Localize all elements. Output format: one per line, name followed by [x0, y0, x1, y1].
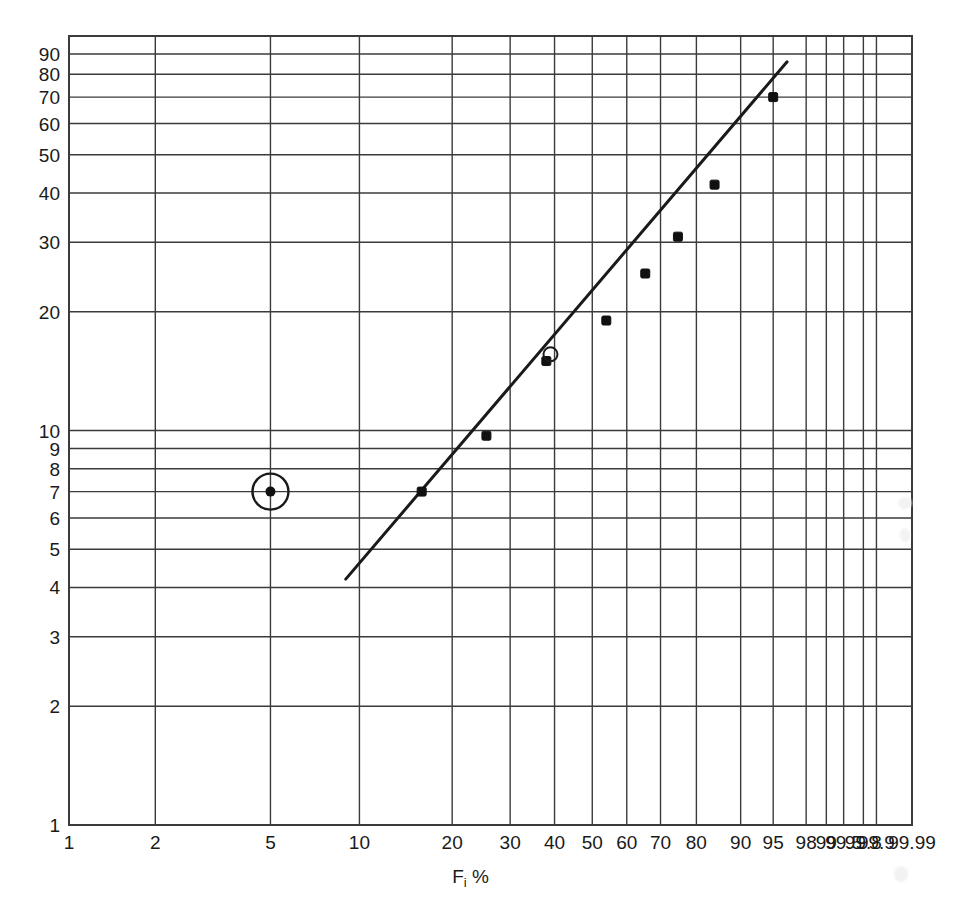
data-point-marker	[673, 232, 682, 241]
data-point-marker	[641, 269, 650, 278]
y-tick-label-5: 5	[14, 540, 60, 559]
y-tick-label-7: 7	[14, 482, 60, 501]
y-tick-label-50: 50	[14, 145, 60, 164]
data-point-marker	[417, 487, 426, 496]
x-axis-title-unit: %	[467, 866, 489, 887]
x-tick-label-2: 2	[150, 833, 161, 852]
x-axis-title: Fi %	[452, 866, 489, 888]
y-tick-label-4: 4	[14, 578, 60, 597]
annotation-markers	[252, 347, 557, 509]
data-point-marker	[710, 180, 719, 189]
x-axis-title-subscript: i	[464, 875, 467, 890]
x-tick-label-50: 50	[582, 833, 603, 852]
y-tick-label-1: 1	[14, 816, 60, 835]
y-tick-label-20: 20	[14, 302, 60, 321]
y-tick-label-80: 80	[14, 65, 60, 84]
y-tick-label-10: 10	[14, 421, 60, 440]
x-tick-label-95: 95	[763, 833, 784, 852]
circled-data-point-marker	[265, 487, 275, 497]
x-tick-label-90: 90	[730, 833, 751, 852]
data-point-markers	[417, 93, 777, 497]
x-tick-label-40: 40	[544, 833, 565, 852]
plot-area	[0, 0, 958, 900]
y-tick-label-6: 6	[14, 509, 60, 528]
scan-artifact-2	[900, 528, 910, 542]
x-tick-label-98: 98	[796, 833, 817, 852]
x-tick-label-60: 60	[616, 833, 637, 852]
x-tick-label-80: 80	[686, 833, 707, 852]
x-tick-label-20: 20	[442, 833, 463, 852]
data-point-marker	[602, 316, 611, 325]
scan-artifact-1	[898, 497, 912, 509]
x-axis-title-symbol: F	[452, 866, 464, 887]
x-tick-label-1: 1	[64, 833, 75, 852]
x-tick-label-70: 70	[650, 833, 671, 852]
y-tick-label-40: 40	[14, 183, 60, 202]
y-tick-label-8: 8	[14, 459, 60, 478]
y-tick-label-70: 70	[14, 88, 60, 107]
fit-line	[346, 62, 787, 579]
y-tick-label-2: 2	[14, 697, 60, 716]
y-tick-label-3: 3	[14, 627, 60, 646]
best-fit-line	[346, 62, 787, 579]
weibull-probability-chart: 123456789102030405060708090 125102030405…	[0, 0, 958, 900]
y-tick-label-60: 60	[14, 114, 60, 133]
data-point-marker	[482, 431, 491, 440]
y-tick-label-9: 9	[14, 439, 60, 458]
x-tick-label-10: 10	[349, 833, 370, 852]
y-tick-label-90: 90	[14, 45, 60, 64]
scan-artifact-3	[894, 866, 908, 882]
y-tick-label-30: 30	[14, 233, 60, 252]
x-tick-label-5: 5	[265, 833, 276, 852]
x-tick-label-30: 30	[500, 833, 521, 852]
data-point-marker	[769, 93, 778, 102]
horizontal-gridlines	[69, 36, 912, 825]
x-tick-label-99.99: 99.99	[888, 833, 936, 852]
